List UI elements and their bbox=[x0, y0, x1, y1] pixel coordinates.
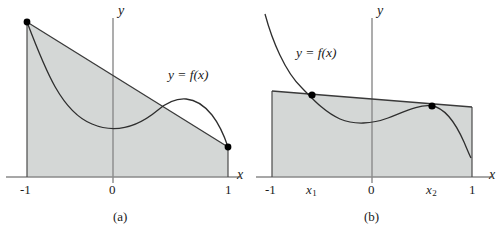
point-intersection-x1-b bbox=[308, 91, 315, 98]
tick-label-b-1: x1 bbox=[306, 183, 317, 198]
tick-label-b-3-base: x bbox=[426, 182, 432, 197]
y-axis-label-b: y bbox=[377, 4, 383, 18]
panel-caption-a: (a) bbox=[113, 210, 127, 223]
point-right-endpoint-a bbox=[225, 144, 232, 151]
tick-label-b-1-base: x bbox=[306, 182, 312, 197]
panel-caption-b: (b) bbox=[364, 210, 379, 223]
tick-label-b-3: x2 bbox=[426, 183, 437, 198]
x-axis-label-a: x bbox=[237, 168, 243, 182]
point-left-endpoint-a bbox=[24, 19, 31, 26]
tick-label-b-2: 0 bbox=[368, 183, 375, 196]
tick-label-b-1-sub: 1 bbox=[312, 188, 317, 198]
y-axis-label-a: y bbox=[118, 4, 124, 18]
tick-label-a-0: -1 bbox=[20, 183, 31, 196]
x-axis-label-b: x bbox=[489, 168, 495, 182]
tick-label-b-4: 1 bbox=[469, 183, 476, 196]
shaded-region-a bbox=[27, 22, 228, 177]
figure-container: y x y = f(x) -1 0 1 (a) bbox=[0, 0, 501, 231]
panel-b-graphic bbox=[250, 0, 501, 231]
panel-a: y x y = f(x) -1 0 1 (a) bbox=[0, 0, 250, 231]
tick-label-a-2: 1 bbox=[225, 183, 232, 196]
function-label-a: y = f(x) bbox=[168, 68, 209, 82]
tick-label-a-1: 0 bbox=[109, 183, 116, 196]
tick-label-b-3-sub: 2 bbox=[432, 188, 437, 198]
function-label-b: y = f(x) bbox=[296, 46, 337, 60]
panel-a-graphic bbox=[0, 0, 250, 231]
panel-b: y x y = f(x) -1 x1 0 x2 1 (b) bbox=[250, 0, 500, 231]
tick-label-b-0: -1 bbox=[265, 183, 276, 196]
point-intersection-x2-b bbox=[428, 102, 435, 109]
